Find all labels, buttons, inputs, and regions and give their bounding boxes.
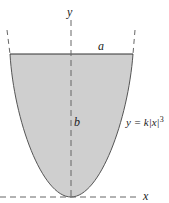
x-axis-label: x (142, 189, 149, 203)
curve-equation-main: y = k|x| (125, 116, 160, 128)
curve-equation: y = k|x|3 (125, 115, 164, 128)
depth-label: b (74, 115, 80, 129)
curve-equation-exponent: 3 (160, 115, 164, 124)
left-wall-dashed (7, 30, 10, 54)
y-axis-label: y (66, 5, 73, 19)
width-label: a (98, 39, 104, 53)
tank-diagram: y x a b y = k|x|3 (0, 0, 169, 203)
right-wall-dashed (133, 30, 135, 54)
